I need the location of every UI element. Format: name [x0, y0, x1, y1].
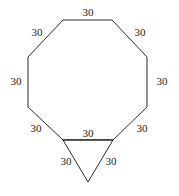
label-octagon-upper-right-edge: 30 [135, 27, 146, 38]
label-octagon-bottom-edge: 30 [83, 128, 94, 139]
label-triangle-left-edge: 30 [61, 156, 72, 167]
octagon-outline [28, 20, 147, 140]
figure-canvas [0, 0, 179, 196]
label-octagon-lower-left-edge: 30 [31, 123, 42, 134]
label-octagon-right-edge: 30 [157, 76, 168, 87]
label-triangle-right-edge: 30 [106, 156, 117, 167]
label-octagon-left-edge: 30 [11, 76, 22, 87]
label-octagon-lower-right-edge: 30 [137, 123, 148, 134]
label-octagon-upper-left-edge: 30 [32, 27, 43, 38]
geometry-figure: 30 30 30 30 30 30 30 30 30 30 [0, 0, 179, 196]
label-octagon-top-edge: 30 [83, 7, 94, 18]
